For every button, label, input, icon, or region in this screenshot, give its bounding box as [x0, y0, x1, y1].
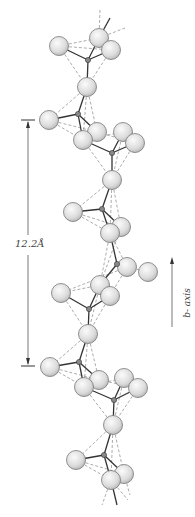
small-atom: [85, 57, 90, 62]
large-atom: [64, 203, 83, 222]
large-atom: [79, 325, 98, 344]
b-axis-label: b- axis: [182, 288, 192, 318]
large-atom: [101, 224, 120, 243]
small-atom: [76, 359, 81, 364]
large-atom: [52, 284, 71, 303]
dashed-coordination-lines: [49, 10, 148, 505]
crystal-chain-diagram: [0, 0, 195, 517]
large-atom: [78, 78, 97, 97]
large-atom: [103, 171, 122, 190]
small-atom: [111, 397, 116, 402]
scale-arrow-down-icon: [26, 358, 30, 365]
small-atom: [86, 306, 91, 311]
scale-bar-label: 12.2Å: [15, 238, 45, 249]
large-atom: [75, 378, 94, 397]
large-atom: [50, 37, 69, 56]
large-atom: [41, 358, 60, 377]
large-atom: [102, 41, 121, 60]
large-atom: [139, 263, 158, 282]
b-axis-arrow: [170, 257, 174, 327]
large-atom: [102, 471, 121, 490]
small-atom: [101, 452, 106, 457]
large-atom: [126, 134, 145, 153]
large-atom: [104, 416, 123, 435]
scale-arrow-up-icon: [26, 121, 30, 128]
large-atom: [74, 131, 93, 150]
large-atoms: [40, 29, 158, 490]
large-atom: [118, 258, 137, 277]
axis-arrowhead-icon: [170, 257, 174, 264]
large-atom: [40, 111, 59, 130]
small-atom: [109, 150, 114, 155]
small-atom: [75, 111, 80, 116]
small-atom: [114, 261, 119, 266]
large-atom: [101, 287, 120, 306]
small-atom: [99, 206, 104, 211]
large-atom: [129, 379, 148, 398]
large-atom: [67, 451, 86, 470]
